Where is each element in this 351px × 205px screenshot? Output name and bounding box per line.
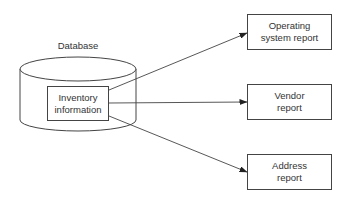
operating-system-report-line1: Operating <box>261 20 319 32</box>
database-label: Database <box>40 40 116 52</box>
operating-system-report-box: Operating system report <box>247 14 332 50</box>
address-report-line2: report <box>272 172 307 184</box>
address-report-box: Address report <box>247 154 332 190</box>
address-report-line1: Address <box>272 160 307 172</box>
arrow-to-operating-system-report <box>109 33 247 90</box>
inventory-information-box: Inventory information <box>47 86 109 121</box>
vendor-report-box: Vendor report <box>247 84 332 120</box>
vendor-report-line1: Vendor <box>274 90 304 102</box>
operating-system-report-line2: system report <box>261 32 319 44</box>
inventory-line1: Inventory <box>55 92 102 104</box>
inventory-line2: information <box>55 104 102 116</box>
database-label-text: Database <box>58 40 99 51</box>
arrow-to-address-report <box>109 116 247 172</box>
vendor-report-line2: report <box>274 102 304 114</box>
